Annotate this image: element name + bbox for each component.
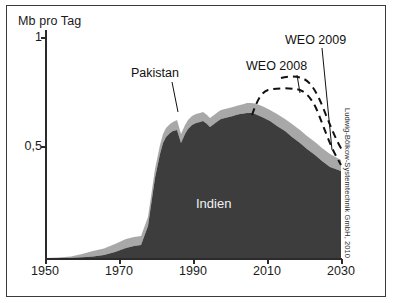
y-tick-label-05: 0,5 — [14, 139, 42, 153]
y-axis-unit-label: Mb pro Tag — [18, 14, 81, 28]
leader-line-weo-2009 — [322, 48, 332, 150]
series-label-weo-2008: WEO 2008 — [246, 59, 307, 73]
x-tick-label-1990: 1990 — [170, 264, 216, 278]
leader-line-pakistan — [172, 82, 178, 112]
x-tick-label-1950: 1950 — [22, 264, 68, 278]
x-tick-label-2030: 2030 — [318, 264, 364, 278]
series-label-pakistan: Pakistan — [131, 66, 179, 80]
y-tick-label-1: 1 — [14, 30, 42, 44]
x-tick-label-1970: 1970 — [96, 264, 142, 278]
credit-text: Ludwig-Bölkow-Systemtechnik GmbH, 2010 — [343, 108, 352, 258]
series-label-weo-2009: WEO 2009 — [285, 33, 346, 47]
y-axis — [45, 30, 47, 259]
series-label-indien: Indien — [196, 196, 231, 211]
x-tick-label-2010: 2010 — [244, 264, 290, 278]
chart-figure: Mb pro Tag 1 0,5 1950 1970 1990 2010 203… — [0, 0, 393, 303]
